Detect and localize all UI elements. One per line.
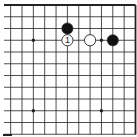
black-stone <box>62 23 73 34</box>
star-point <box>32 109 35 112</box>
star-point <box>100 109 103 112</box>
go-board: 1 <box>0 0 137 137</box>
white-stone <box>85 35 96 46</box>
black-stone <box>107 35 118 46</box>
star-point <box>32 39 35 42</box>
caption-fragment <box>3 134 12 136</box>
star-point <box>100 39 103 42</box>
move-number-label: 1 <box>65 35 70 45</box>
